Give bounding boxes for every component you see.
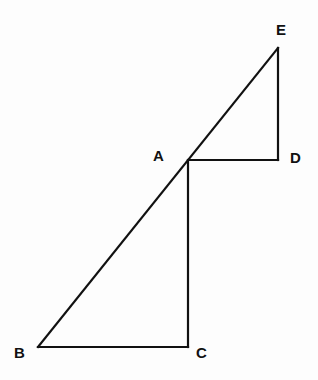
segment-BE [38,48,278,347]
label-E: E [276,22,286,37]
label-B: B [14,345,25,360]
diagram-lines [0,0,318,380]
geometry-diagram: E D A B C [0,0,318,380]
label-A: A [153,148,164,163]
label-D: D [290,150,301,165]
label-C: C [196,345,207,360]
